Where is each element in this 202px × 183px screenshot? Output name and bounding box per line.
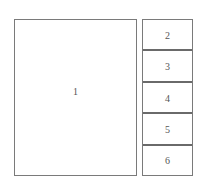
panel-1: 1 [14,19,137,176]
panel-6-label: 6 [165,155,170,166]
panel-2-label: 2 [165,30,170,41]
panel-4: 4 [143,81,192,113]
panel-2: 2 [143,20,192,50]
panel-1-label: 1 [73,86,78,97]
panel-5-label: 5 [165,124,170,135]
panel-4-label: 4 [165,93,170,104]
panel-3-label: 3 [165,61,170,72]
panel-5: 5 [143,112,192,144]
panel-stack: 2 3 4 5 6 [142,19,193,176]
panel-6: 6 [143,144,192,175]
panel-3: 3 [143,49,192,81]
